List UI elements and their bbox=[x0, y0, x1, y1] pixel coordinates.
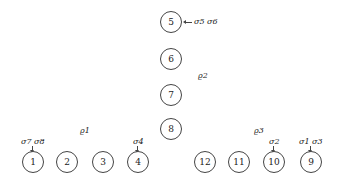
node-5: 5 bbox=[160, 11, 182, 33]
arrow-icon bbox=[185, 22, 192, 23]
node-6: 6 bbox=[160, 48, 182, 70]
node-2: 2 bbox=[56, 151, 78, 173]
annotation-node-9: σ1 σ3 bbox=[299, 137, 323, 146]
node-12: 12 bbox=[194, 151, 216, 173]
node-4: 4 bbox=[127, 151, 149, 173]
annotation-node-10: σ2 bbox=[269, 137, 280, 146]
annotation-node-1: σ7 σ8 bbox=[21, 137, 45, 146]
node-7: 7 bbox=[160, 84, 182, 106]
annotation-node-4: σ4 bbox=[133, 137, 144, 146]
group-label-rho2: ϱ2 bbox=[198, 71, 208, 80]
node-1: 1 bbox=[22, 151, 44, 173]
node-10: 10 bbox=[263, 151, 285, 173]
node-11: 11 bbox=[228, 151, 250, 173]
node-3: 3 bbox=[92, 151, 114, 173]
node-8: 8 bbox=[160, 118, 182, 140]
annotation-node-5: σ5 σ6 bbox=[194, 17, 218, 26]
group-label-rho1: ϱ1 bbox=[80, 126, 90, 135]
group-label-rho3: ϱ3 bbox=[254, 126, 264, 135]
node-9: 9 bbox=[300, 151, 322, 173]
